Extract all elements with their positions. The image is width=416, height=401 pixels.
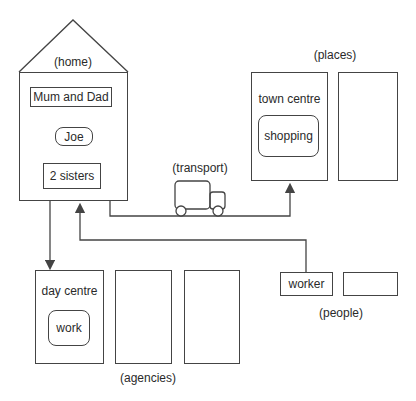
places-label: (places) [310, 48, 360, 62]
member-mum-and-dad: Mum and Dad [30, 87, 112, 107]
arrow-home-to-town-centre [110, 188, 290, 216]
truck-icon [175, 181, 225, 216]
shopping-box: shopping [258, 115, 319, 157]
places-empty-box [338, 72, 398, 181]
agency-empty-box-2 [184, 270, 240, 364]
arrow-worker-to-home [80, 208, 306, 273]
work-box: work [48, 310, 90, 346]
transport-label: (transport) [170, 161, 230, 175]
people-empty-box [343, 272, 398, 296]
town-centre-label: town centre [251, 92, 328, 106]
home-label: (home) [50, 55, 96, 69]
agencies-label: (agencies) [113, 371, 183, 385]
people-label: (people) [316, 306, 366, 320]
member-joe: Joe [55, 127, 93, 146]
worker-box: worker [280, 272, 333, 296]
member-2-sisters: 2 sisters [43, 163, 101, 189]
agency-empty-box-1 [115, 270, 172, 364]
day-centre-label: day centre [35, 284, 104, 298]
